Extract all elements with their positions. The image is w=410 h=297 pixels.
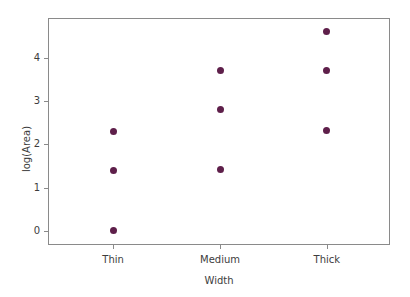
y-tick-label: 2 xyxy=(34,139,40,149)
y-tick-label: 3 xyxy=(34,96,40,106)
y-tick-label: 0 xyxy=(34,226,40,236)
y-tick-mark xyxy=(44,101,49,102)
data-point xyxy=(323,28,330,35)
scatter-plot-figure: 01234 ThinMediumThick log(Area) Width xyxy=(0,0,410,297)
y-tick-mark xyxy=(44,231,49,232)
y-tick-mark xyxy=(44,144,49,145)
y-axis-label: log(Area) xyxy=(22,125,32,171)
plot-area: 01234 ThinMediumThick xyxy=(48,18,390,245)
y-tick-label: 1 xyxy=(34,183,40,193)
x-tick-label: Thick xyxy=(314,254,341,265)
x-tick-mark xyxy=(220,244,221,249)
x-tick-label: Medium xyxy=(200,254,240,265)
data-point xyxy=(110,128,117,135)
x-tick-mark xyxy=(327,244,328,249)
y-tick-label: 4 xyxy=(34,53,40,63)
x-tick-mark xyxy=(113,244,114,249)
data-point xyxy=(217,67,224,74)
data-point xyxy=(217,106,224,113)
data-point xyxy=(110,227,117,234)
data-point xyxy=(110,167,117,174)
y-tick-mark xyxy=(44,188,49,189)
x-axis-label: Width xyxy=(48,275,390,286)
x-tick-label: Thin xyxy=(102,254,124,265)
y-tick-mark xyxy=(44,58,49,59)
data-point xyxy=(323,127,330,134)
data-point xyxy=(217,166,224,173)
data-point xyxy=(323,67,330,74)
